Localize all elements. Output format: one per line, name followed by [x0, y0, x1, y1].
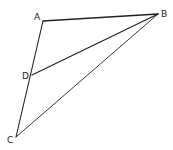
geometry-figure: A B D C — [0, 0, 173, 150]
label-a: A — [34, 12, 41, 22]
segment-db — [32, 14, 158, 75]
label-b: B — [161, 9, 167, 19]
label-c: C — [7, 135, 13, 145]
segment-ab — [43, 14, 158, 21]
segment-cb — [16, 14, 158, 137]
segment-ac — [16, 21, 43, 137]
label-d: D — [22, 71, 29, 81]
